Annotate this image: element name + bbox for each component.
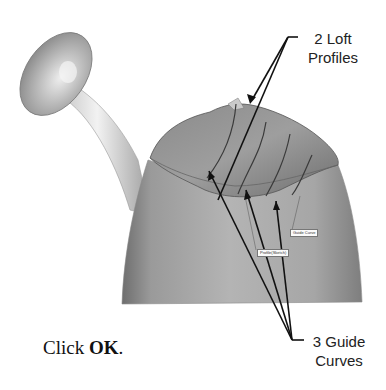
loft-profiles-callout-line2: Profiles <box>298 48 368 67</box>
ok-button-reference: OK <box>89 337 119 358</box>
guide-curves-callout-line2: Curves <box>304 351 374 370</box>
guide-curves-callout-line1: 3 Guide <box>304 332 374 351</box>
watering-can-figure: Guide Curve Profile(Sketch) 2 Loft Profi… <box>0 0 386 390</box>
spout <box>5 19 150 215</box>
profile-tag: Profile(Sketch) <box>257 249 289 257</box>
loft-profiles-callout-line1: 2 Loft <box>298 29 368 48</box>
loft-profiles-callout: 2 Loft Profiles <box>298 29 368 67</box>
instruction-text: Click OK. <box>43 337 123 359</box>
guide-curves-callout: 3 Guide Curves <box>304 332 374 370</box>
instruction-suffix: . <box>118 337 123 358</box>
guide-curve-tag: Guide Curve <box>290 229 318 237</box>
instruction-prefix: Click <box>43 337 89 358</box>
